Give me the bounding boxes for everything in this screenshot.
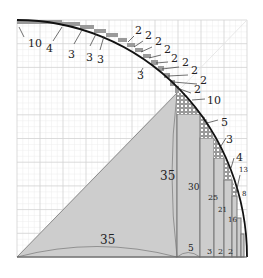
diagram-label: 4 [46,42,53,55]
diagram-label: 2 [194,83,201,96]
diagram-label: 10 [28,37,42,50]
diagram-label: 3 [68,48,75,61]
diagram-label: 8 [242,190,246,198]
diagram-label: 2 [135,24,142,37]
diagram-label: 2 [200,74,207,87]
diagram-label: 2 [228,247,233,256]
diagram-label: 3 [97,53,104,66]
diagram-label: 5 [188,243,194,253]
diagram-label: 3 [137,69,144,82]
diagram-label: 21 [218,206,227,214]
diagram-label: 2 [171,52,178,65]
diagram-label: 3 [86,51,93,64]
diagram-label: 25 [208,193,218,202]
diagram-label: 2 [191,64,198,77]
diagram-label: 5 [221,116,228,129]
diagram-label: 4 [236,151,243,164]
diagram-label: 2 [218,247,223,256]
diagram-label: 13 [239,166,248,174]
diagram-label: 30 [188,182,200,192]
shaded-triangle [17,93,177,257]
diagram-label: 2 [145,29,152,42]
diagram-label: 10 [207,94,221,107]
diagram-label: 16 [228,216,237,224]
diagram-label: 2 [182,56,189,69]
diagram-label: 2 [164,43,171,56]
quarter-circle-diagram: 1043332222222223105341383535302521165322 [0,0,263,278]
diagram-label: 2 [155,35,162,48]
diagram-label: 35 [160,169,175,183]
diagram-label: 3 [207,247,212,256]
diagram-label: 3 [226,133,233,146]
diagram-label: 35 [100,233,115,247]
